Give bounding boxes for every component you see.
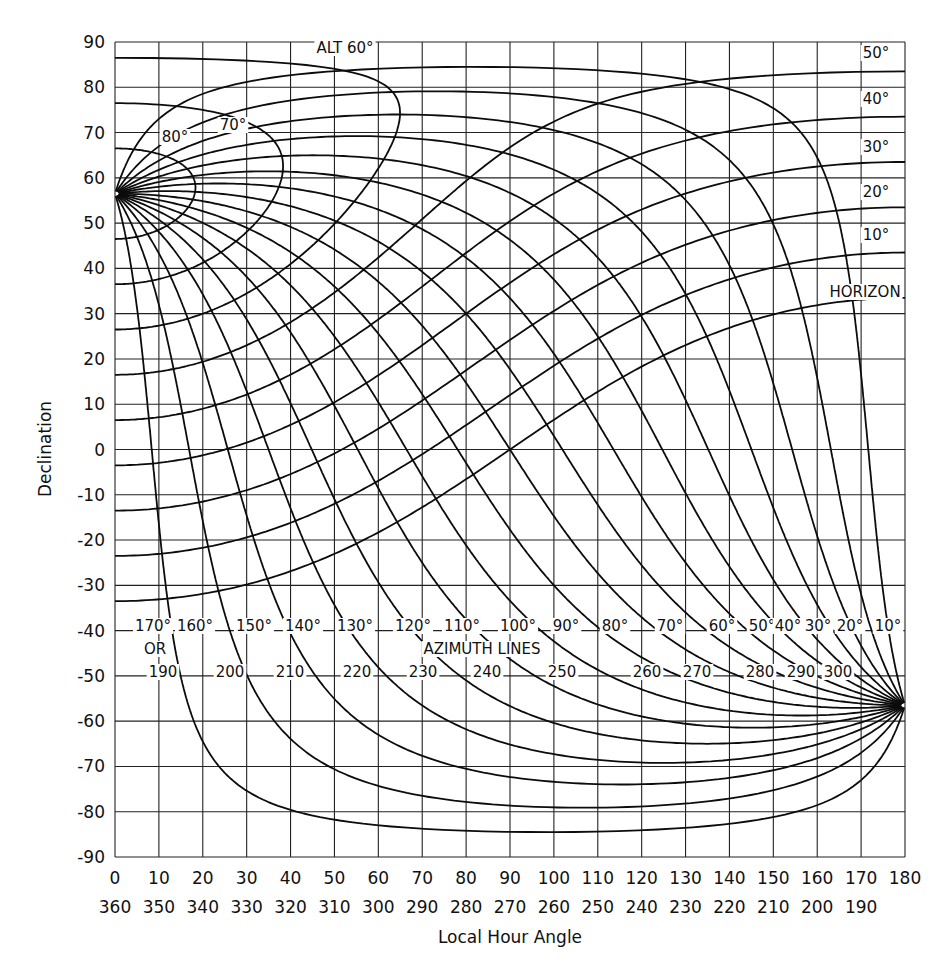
y-tick-label: 30 [83, 304, 105, 324]
x-tick-label: 120 [625, 868, 657, 888]
x-tick-label-secondary: 300 [362, 897, 394, 917]
azimuth-label-top: 10° [875, 617, 902, 635]
altitude-label: 40° [863, 90, 890, 108]
x-tick-label: 50 [324, 868, 346, 888]
y-tick-label: -20 [77, 530, 105, 550]
altitude-label: 80° [162, 128, 189, 146]
azimuth-label-top: 110° [444, 617, 480, 635]
azimuth-label-top: 160° [177, 617, 213, 635]
altitude-label: 70° [220, 116, 247, 134]
azimuth-label-bottom: 280 [746, 663, 775, 681]
y-tick-label: -40 [77, 621, 105, 641]
azimuth-label-top: 140° [285, 617, 321, 635]
alt60-label: ALT 60° [316, 39, 373, 57]
azimuth-label-bottom: 230 [409, 663, 438, 681]
x-tick-label-secondary: 340 [187, 897, 219, 917]
azimuth-label-bottom: 220 [343, 663, 372, 681]
x-tick-label: 20 [192, 868, 214, 888]
x-tick-label: 30 [236, 868, 258, 888]
x-tick-label: 0 [110, 868, 121, 888]
x-tick-label: 180 [889, 868, 921, 888]
y-tick-label: 50 [83, 213, 105, 233]
y-tick-label: -80 [77, 802, 105, 822]
altitude-label: 50° [863, 44, 890, 62]
y-tick-label: -30 [77, 575, 105, 595]
azimuth-label-bottom: 250 [548, 663, 577, 681]
azimuth-label-top: 60° [709, 617, 736, 635]
azimuth-label-bottom: 270 [683, 663, 712, 681]
azimuth-label-top: 90° [553, 617, 580, 635]
azimuth-label-bottom: 240 [473, 663, 502, 681]
x-tick-label: 90 [499, 868, 521, 888]
y-axis-ticks: 9080706050403020100-10-20-30-40-50-60-70… [77, 32, 105, 867]
y-tick-label: -60 [77, 711, 105, 731]
x-tick-label: 140 [713, 868, 745, 888]
azimuth-lines-title: AZIMUTH LINES [423, 640, 540, 658]
x-tick-label: 170 [845, 868, 877, 888]
x-tick-label-secondary: 320 [274, 897, 306, 917]
altitude-label: 10° [863, 226, 890, 244]
x-tick-label: 40 [280, 868, 302, 888]
azimuth-label-top: 50° [749, 617, 776, 635]
azimuth-label-bottom: 290 [787, 663, 816, 681]
azimuth-label-top: 70° [657, 617, 684, 635]
x-tick-label: 10 [148, 868, 170, 888]
azimuth-label-top: 120° [395, 617, 431, 635]
x-tick-label: 60 [368, 868, 390, 888]
azimuth-label-bottom: 210 [276, 663, 305, 681]
y-tick-label: 90 [83, 32, 105, 52]
x-tick-label: 110 [582, 868, 614, 888]
x-tick-label-secondary: 350 [143, 897, 175, 917]
x-tick-label-secondary: 310 [318, 897, 350, 917]
horizon-label: HORIZON [829, 283, 900, 301]
y-tick-label: -90 [77, 847, 105, 867]
y-axis-title: Declination [35, 401, 55, 497]
x-tick-label: 150 [757, 868, 789, 888]
azimuth-label-top: 30° [805, 617, 832, 635]
azimuth-label-bottom: 300 [824, 663, 853, 681]
altitude-label: 30° [863, 138, 890, 156]
x-tick-label: 80 [455, 868, 477, 888]
y-tick-label: 20 [83, 349, 105, 369]
y-tick-label: -50 [77, 666, 105, 686]
azimuth-label-top: 150° [236, 617, 272, 635]
y-tick-label: 0 [94, 440, 105, 460]
x-tick-label: 100 [538, 868, 570, 888]
azimuth-label-top: 20° [837, 617, 864, 635]
x-tick-label-secondary: 230 [669, 897, 701, 917]
x-tick-label-secondary: 290 [406, 897, 438, 917]
x-tick-label: 70 [411, 868, 433, 888]
altitude-label: 20° [863, 183, 890, 201]
x-tick-label-secondary: 260 [538, 897, 570, 917]
x-tick-label-secondary: 190 [845, 897, 877, 917]
x-tick-label-secondary: 250 [582, 897, 614, 917]
y-tick-label: 70 [83, 123, 105, 143]
x-tick-label-secondary: 240 [625, 897, 657, 917]
x-tick-label-secondary: 200 [801, 897, 833, 917]
x-tick-label: 160 [801, 868, 833, 888]
y-tick-label: 60 [83, 168, 105, 188]
azimuth-label-top: 40° [775, 617, 802, 635]
x-tick-label: 130 [669, 868, 701, 888]
y-tick-label: 40 [83, 258, 105, 278]
y-tick-label: -70 [77, 756, 105, 776]
azimuth-label-bottom: 190 [149, 663, 178, 681]
azimuth-label-top: 170° [135, 617, 171, 635]
x-tick-label-secondary: 360 [99, 897, 131, 917]
azimuth-label-top: 100° [500, 617, 536, 635]
x-tick-label-secondary: 220 [713, 897, 745, 917]
altitude-azimuth-chart: 9080706050403020100-10-20-30-40-50-60-70… [0, 0, 947, 980]
y-tick-label: -10 [77, 485, 105, 505]
or-label: OR [144, 640, 166, 658]
x-tick-label-secondary: 210 [757, 897, 789, 917]
x-tick-label-secondary: 330 [230, 897, 262, 917]
azimuth-label-top: 130° [337, 617, 373, 635]
x-axis-ticks: 0102030405060708090100110120130140150160… [99, 868, 921, 917]
x-tick-label-secondary: 280 [450, 897, 482, 917]
x-tick-label-secondary: 270 [494, 897, 526, 917]
y-tick-label: 10 [83, 394, 105, 414]
y-tick-label: 80 [83, 77, 105, 97]
azimuth-label-top: 80° [602, 617, 629, 635]
azimuth-label-bottom: 200 [216, 663, 245, 681]
azimuth-label-bottom: 260 [633, 663, 662, 681]
